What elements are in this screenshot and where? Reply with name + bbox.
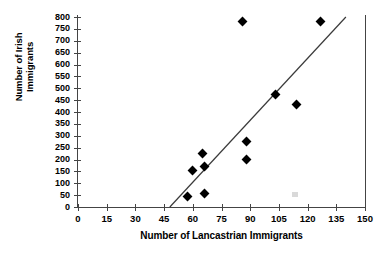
x-tick-mark (365, 204, 366, 211)
data-point (188, 165, 198, 175)
y-tick-label: 200 (30, 155, 70, 164)
y-tick-mark (74, 183, 81, 184)
x-tick-label: 30 (120, 213, 150, 224)
data-point (182, 191, 192, 201)
y-tick-mark (74, 76, 81, 77)
x-tick-label: 135 (321, 213, 351, 224)
y-tick-label: 750 (30, 24, 70, 33)
x-tick-mark (135, 204, 136, 211)
y-tick-mark (74, 88, 81, 89)
x-tick-label: 60 (178, 213, 208, 224)
x-tick-label: 45 (149, 213, 179, 224)
y-tick-label: 250 (30, 143, 70, 152)
x-tick-mark (107, 204, 108, 211)
y-tick-mark (74, 136, 81, 137)
y-tick-mark (74, 124, 81, 125)
data-point (270, 89, 280, 99)
y-tick-label: 150 (30, 167, 70, 176)
data-point (238, 17, 248, 27)
x-tick-mark (308, 204, 309, 211)
x-tick-label: 0 (63, 213, 93, 224)
scan-artifact-speck (292, 192, 298, 197)
y-tick-mark (74, 53, 81, 54)
x-tick-mark (250, 204, 251, 211)
x-tick-label: 90 (235, 213, 265, 224)
data-point (199, 162, 209, 172)
data-point (241, 155, 251, 165)
data-point (316, 17, 326, 27)
y-tick-label: 450 (30, 96, 70, 105)
y-tick-label: 0 (30, 203, 70, 212)
x-axis-title: Number of Lancastrian Immigrants (78, 230, 365, 241)
data-point (197, 149, 207, 159)
y-tick-label: 300 (30, 131, 70, 140)
y-tick-label: 500 (30, 84, 70, 93)
y-axis-title-line1: Number of Irish (13, 33, 24, 102)
x-tick-mark (336, 204, 337, 211)
y-tick-mark (74, 17, 81, 18)
y-tick-label: 350 (30, 119, 70, 128)
x-tick-label: 105 (264, 213, 294, 224)
data-point (291, 100, 301, 110)
data-point (241, 137, 251, 147)
x-tick-mark (222, 204, 223, 211)
y-tick-label: 50 (30, 191, 70, 200)
plot-frame-right-edge (365, 15, 366, 208)
y-tick-label: 100 (30, 179, 70, 188)
y-tick-mark (74, 41, 81, 42)
x-tick-label: 150 (350, 213, 380, 224)
x-tick-mark (193, 204, 194, 211)
y-tick-label: 400 (30, 108, 70, 117)
x-tick-label: 15 (92, 213, 122, 224)
y-tick-mark (74, 148, 81, 149)
y-tick-mark (74, 112, 81, 113)
x-tick-label: 75 (207, 213, 237, 224)
x-tick-mark (279, 204, 280, 211)
x-tick-mark (164, 204, 165, 211)
y-tick-label: 800 (30, 13, 70, 22)
y-tick-label: 650 (30, 48, 70, 57)
y-tick-mark (74, 100, 81, 101)
y-tick-mark (74, 195, 81, 196)
y-tick-mark (74, 171, 81, 172)
y-tick-mark (74, 160, 81, 161)
y-tick-mark (74, 65, 81, 66)
y-tick-label: 700 (30, 36, 70, 45)
y-tick-label: 600 (30, 60, 70, 69)
y-tick-label: 550 (30, 72, 70, 81)
x-tick-label: 120 (293, 213, 323, 224)
y-tick-mark (74, 29, 81, 30)
data-point (199, 189, 209, 199)
x-tick-mark (78, 204, 79, 211)
scatter-chart-figure: Number of IrishImmigrants 05010015020025… (0, 0, 385, 259)
